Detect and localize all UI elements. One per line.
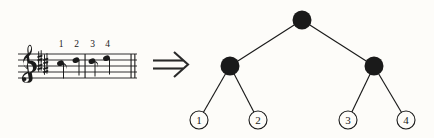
- tree-leaf-1-label: 1: [196, 114, 202, 126]
- tree-node-left-internal: [221, 57, 240, 76]
- edge-root-left: [230, 20, 302, 66]
- tree-leaf-1: 1: [190, 111, 208, 129]
- binary-tree-diagram: 1 2 3 4: [178, 0, 434, 138]
- edge-root-right: [302, 20, 374, 66]
- treble-clef-icon: [22, 45, 37, 83]
- tree-node-right-internal: [365, 57, 384, 76]
- note-number-2: 2: [74, 39, 79, 49]
- tree-leaf-2: 2: [249, 111, 267, 129]
- note-number-3: 3: [90, 39, 95, 49]
- tree-node-root: [293, 11, 312, 30]
- note-number-1: 1: [59, 39, 64, 49]
- note-4: [102, 55, 110, 75]
- note-1: [56, 60, 66, 79]
- music-to-tree-figure: 1 2 3 4: [0, 0, 434, 138]
- music-notation-staff: 1 2 3 4: [10, 36, 145, 94]
- tree-leaf-4: 4: [397, 111, 415, 129]
- note-number-4: 4: [105, 39, 110, 49]
- tree-leaf-3-label: 3: [345, 114, 351, 126]
- tree-leaf-3: 3: [339, 111, 357, 129]
- tree-leaf-2-label: 2: [255, 114, 261, 126]
- tree-leaf-4-label: 4: [403, 114, 409, 126]
